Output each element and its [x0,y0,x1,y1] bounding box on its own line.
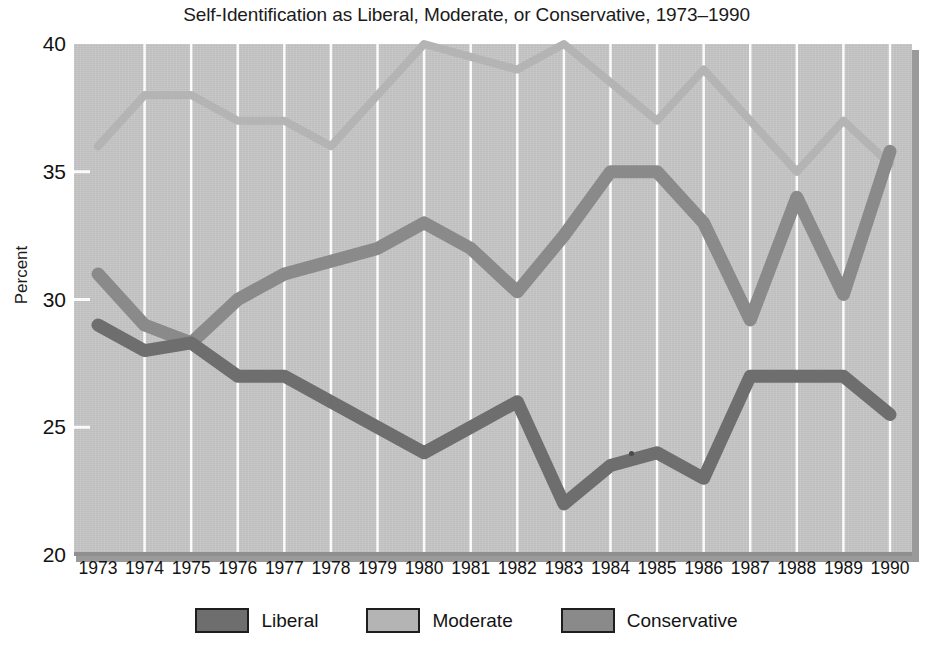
legend-swatch-liberal [195,608,249,633]
legend-item-liberal[interactable]: Liberal [195,608,318,633]
legend-label: Liberal [261,610,318,632]
legend-label: Moderate [432,610,512,632]
x-tick-label: 1990 [860,560,920,578]
legend-label: Conservative [627,610,738,632]
legend-item-moderate[interactable]: Moderate [366,608,512,633]
x-axis-ticks: 1973197419751976197719781979198019811982… [0,0,933,652]
legend-swatch-conservative [561,608,615,633]
chart-legend: LiberalModerateConservative [0,608,933,633]
legend-swatch-moderate [366,608,420,633]
chart-figure: Self-Identification as Liberal, Moderate… [0,0,933,652]
legend-item-conservative[interactable]: Conservative [561,608,738,633]
